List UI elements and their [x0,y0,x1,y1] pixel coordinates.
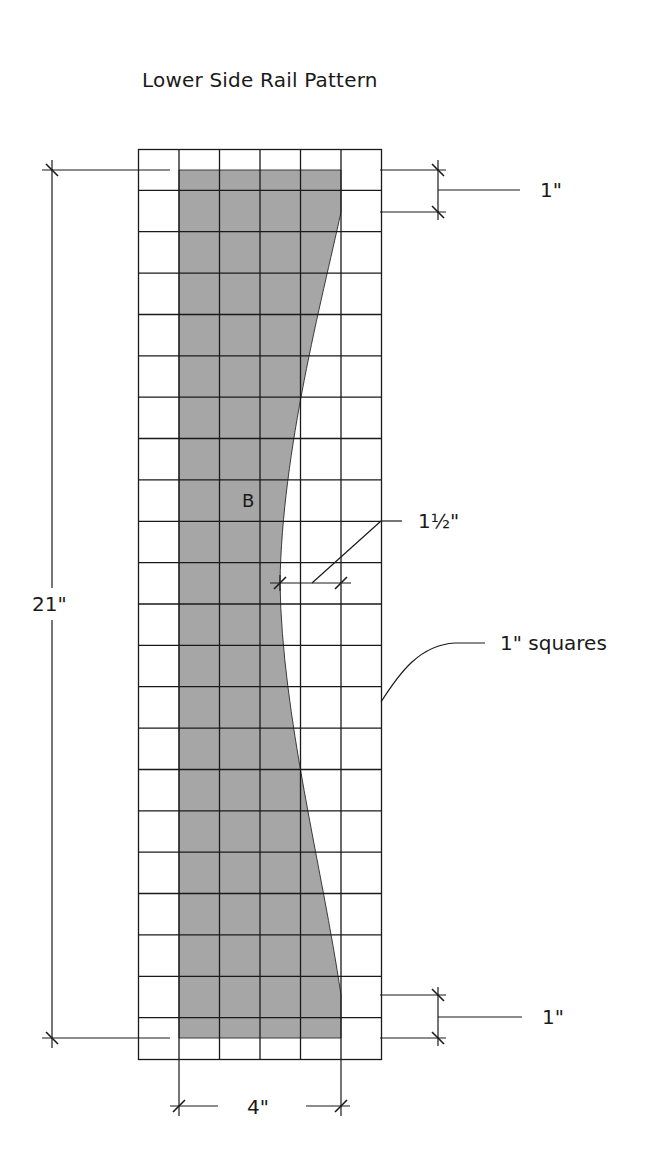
grid-lines [138,149,382,1060]
pattern-drawing [0,0,654,1149]
piece-label: B [242,490,254,511]
grid-note-leader [381,643,485,702]
label-bottom-offset: 1" [542,1005,564,1029]
label-top-offset: 1" [540,178,562,202]
dimension-curve-depth [270,521,402,591]
label-grid-note: 1" squares [500,631,607,655]
dimension-top-offset [380,160,520,220]
label-curve-depth: 1½" [418,509,459,533]
dimension-bottom-offset [380,987,522,1046]
label-overall-length: 21" [32,592,67,616]
label-width: 4" [247,1095,269,1119]
